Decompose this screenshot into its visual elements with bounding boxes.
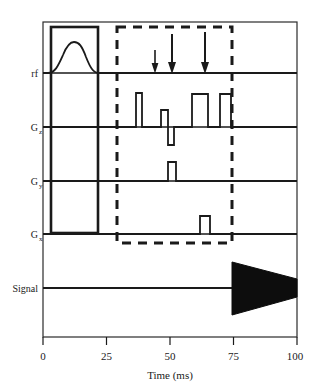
x-tick-label-0: 0 — [40, 350, 46, 362]
channel-label-gy-subscript: y — [39, 182, 43, 190]
channel-label-gz-subscript: z — [39, 128, 42, 136]
figure-background — [0, 0, 315, 392]
channel-label-signal: Signal — [12, 283, 38, 294]
x-tick-label-25: 25 — [101, 350, 113, 362]
pulse-sequence-figure: 0 25 50 75 100 Time (ms) rf G z G y G x … — [0, 0, 315, 392]
x-tick-label-50: 50 — [165, 350, 177, 362]
channel-label-rf: rf — [31, 68, 38, 79]
x-tick-label-100: 100 — [287, 350, 304, 362]
channel-label-gx-subscript: x — [39, 235, 43, 243]
x-axis-title: Time (ms) — [147, 369, 193, 382]
x-tick-label-75: 75 — [228, 350, 240, 362]
pulse-sequence-svg: 0 25 50 75 100 Time (ms) rf G z G y G x … — [0, 0, 315, 392]
channel-label-gz: G — [31, 122, 38, 133]
channel-label-gx: G — [31, 229, 38, 240]
channel-label-gy: G — [31, 176, 38, 187]
